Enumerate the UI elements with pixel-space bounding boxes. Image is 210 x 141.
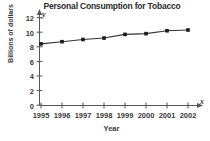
- data-point-1996: [60, 40, 64, 44]
- data-point-markers: [39, 28, 190, 45]
- plot-area: [0, 0, 210, 141]
- data-point-2000: [144, 32, 148, 36]
- data-point-1998: [102, 36, 106, 40]
- data-point-1997: [81, 38, 85, 42]
- data-point-1995: [39, 42, 43, 46]
- data-point-2002: [186, 28, 190, 32]
- x-axis-arrow-icon: [197, 103, 203, 108]
- y-axis-arrow-icon: [37, 9, 42, 15]
- data-point-2001: [165, 29, 169, 33]
- data-point-1999: [123, 33, 127, 37]
- chart-container: Personal Consumption for Tobacco Billion…: [0, 0, 210, 141]
